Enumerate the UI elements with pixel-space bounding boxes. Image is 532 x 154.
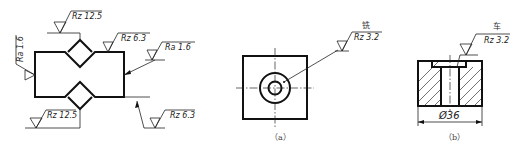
roughness-symbol-left: Ra 1.6 — [16, 35, 35, 80]
roughness-symbol-right: Ra 1.6 — [124, 42, 195, 75]
label-rz-12-5-top: Rz 12.5 — [72, 12, 102, 21]
label-rz-3-2-a: Rz 3.2 — [354, 33, 379, 42]
process-label-milling: 铣 — [362, 20, 370, 30]
top-groove — [68, 40, 92, 52]
roughness-symbol-bottom-right: Rz 6.3 — [124, 97, 195, 128]
leader-line-a — [284, 50, 338, 82]
label-rz-3-2-b: Rz 3.2 — [484, 36, 509, 45]
roughness-symbol-top-right: Rz 6.3 — [103, 33, 150, 52]
label-ra-1-6-left: Ra 1.6 — [16, 36, 25, 62]
label-ra-1-6-right: Ra 1.6 — [165, 43, 191, 52]
bottom-groove — [68, 97, 92, 109]
dimension-diameter-36: Ø36 — [438, 110, 460, 121]
process-label-turning: 车 — [493, 21, 501, 31]
roughness-triangle-a — [337, 41, 347, 51]
roughness-symbol-top-notch: Rz 12.5 — [47, 11, 102, 40]
figure-a-drawing: Rz 3.2 铣 （a） — [236, 20, 382, 142]
label-rz-12-5-bottom: Rz 12.5 — [47, 111, 77, 120]
label-rz-6-3-bottom: Rz 6.3 — [170, 111, 195, 120]
surface-roughness-drawing: Rz 12.5 Rz 6.3 Ra 1.6 Ra 1.6 — [0, 0, 532, 154]
label-rz-6-3-top: Rz 6.3 — [121, 34, 146, 43]
caption-b: （b） — [444, 133, 465, 142]
left-part-drawing: Rz 12.5 Rz 6.3 Ra 1.6 Ra 1.6 — [16, 11, 195, 128]
part-outline — [35, 52, 124, 97]
figure-b-drawing: Rz 3.2 车 Ø36 （b） — [390, 21, 520, 142]
caption-a: （a） — [270, 133, 291, 142]
roughness-symbol-bottom-notch: Rz 12.5 — [25, 109, 80, 128]
